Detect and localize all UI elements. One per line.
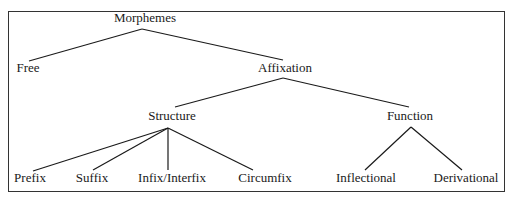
edge-structure-circumfix [168,128,253,170]
edge-affixation-structure [175,78,283,107]
edge-function-inflectional [365,127,411,170]
edge-structure-suffix [93,128,168,170]
node-free: Free [16,61,39,75]
edge-root-affixation [142,29,283,60]
node-inflectional: Inflectional [336,171,396,185]
node-circumfix: Circumfix [238,171,291,185]
node-infix-interfix: Infix/Interfix [138,171,206,185]
node-prefix: Prefix [14,171,46,185]
edge-function-derivational [411,127,462,170]
edge-root-free [29,29,142,61]
node-function: Function [387,109,433,123]
node-suffix: Suffix [76,171,108,185]
edge-affixation-function [283,78,409,107]
node-affixation: Affixation [258,61,312,75]
node-structure: Structure [148,109,196,123]
edge-structure-prefix [33,128,168,171]
node-derivational: Derivational [434,171,499,185]
node-morphemes: Morphemes [114,11,176,25]
